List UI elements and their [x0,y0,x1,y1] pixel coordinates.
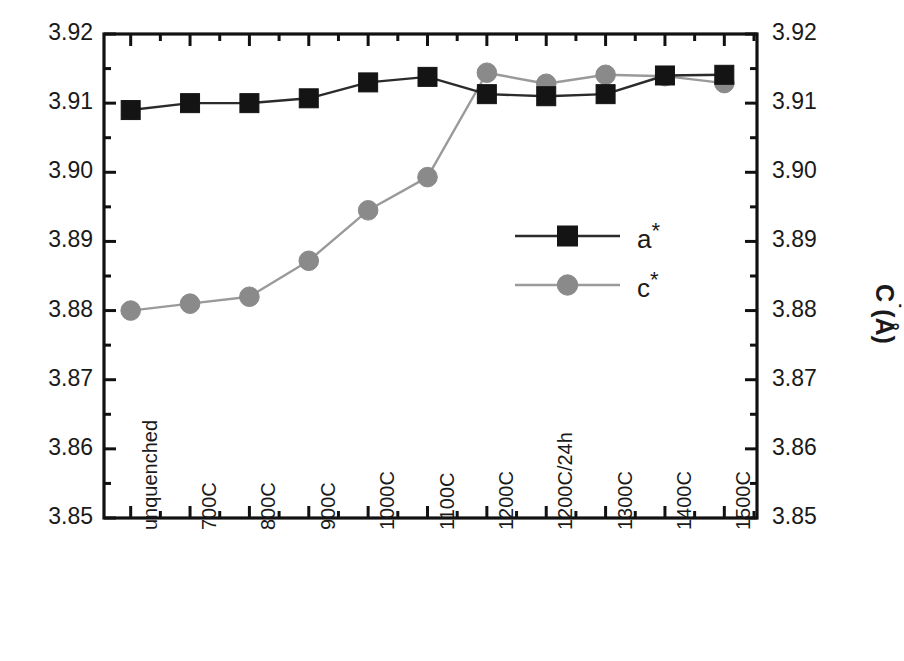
x-axis-tick-label: 1300C [614,471,637,530]
data-point-marker [299,89,318,108]
x-axis-tick-label: 700C [198,482,221,530]
x-axis-tick-label: 1200C/24h [554,432,577,530]
x-axis-tick-label: 1200C [495,471,518,530]
data-point-marker [477,85,496,104]
data-point-marker [418,67,437,86]
y-axis-right-title: C˙(Å) [870,239,904,389]
data-point-marker [240,94,259,113]
y-axis-left-tick-label: 3.92 [0,19,93,46]
x-axis-tick-label: 1100C [436,473,459,530]
y-axis-right-title-text: C˙(Å) [871,284,899,344]
x-axis-tick-label: 1000C [376,471,399,530]
x-axis-tick-label: 800C [257,482,280,530]
data-point-marker [240,287,260,307]
data-point-marker [180,294,200,314]
legend-item-label: a [637,224,651,254]
y-axis-right-tick-label: 3.87 [772,365,872,392]
y-axis-left-tick-label: 3.88 [0,296,93,323]
y-axis-left-tick-label: 3.85 [0,503,93,530]
data-point-marker [418,167,438,187]
y-axis-right-tick-label: 3.90 [772,157,872,184]
legend-item-astar: a* [637,218,660,255]
data-point-marker [596,85,615,104]
y-axis-left-tick-label: 3.90 [0,157,93,184]
legend-item-cstar: c* [637,267,659,304]
y-axis-right-tick-label: 3.92 [772,19,872,46]
y-axis-right-tick-label: 3.89 [772,226,872,253]
x-axis-tick-label: 900C [317,482,340,530]
legend-marker [558,226,578,246]
y-axis-left-tick-label: 3.86 [0,434,93,461]
series-line [131,73,725,311]
y-axis-left-tick-label: 3.91 [0,88,93,115]
y-axis-right-tick-label: 3.88 [772,296,872,323]
data-point-marker [299,251,319,271]
x-axis-tick-label: 1500C [732,471,755,530]
data-point-marker [715,65,734,84]
y-axis-right-tick-label: 3.91 [772,88,872,115]
ticks-layer [104,34,757,518]
legend-item-star: * [650,267,659,292]
y-axis-left-tick-label: 3.87 [0,365,93,392]
x-axis-tick-label: 1400C [673,471,696,530]
data-point-marker [181,94,200,113]
data-point-marker [537,87,556,106]
axes-frame [104,34,757,518]
data-point-marker [596,65,616,85]
data-point-marker [358,201,378,221]
x-axis-tick-label: unquenched [139,420,162,530]
y-axis-right-tick-label: 3.85 [772,503,872,530]
data-point-marker [655,66,674,85]
data-point-marker [121,301,141,321]
data-point-marker [477,63,497,83]
data-point-marker [359,73,378,92]
y-axis-left-tick-label: 3.89 [0,226,93,253]
y-axis-right-tick-label: 3.86 [772,434,872,461]
legend-item-star: * [651,218,660,243]
legend-item-label: c [637,273,650,303]
data-point-marker [121,101,140,120]
axes-box [104,34,757,518]
legend-layer [515,226,620,295]
legend-marker [557,275,577,295]
series-astar [121,65,734,119]
